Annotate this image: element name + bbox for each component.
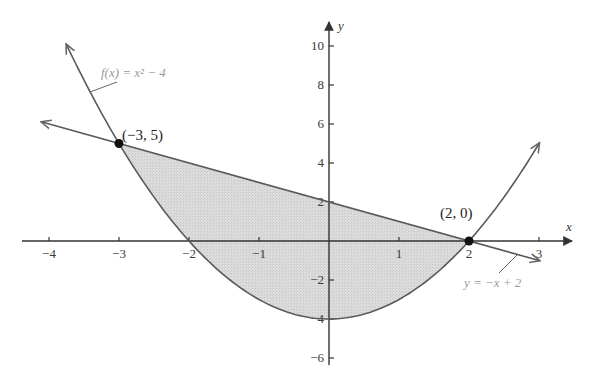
- parabola-label-pointer: [90, 82, 117, 92]
- x-axis-label: x: [565, 219, 572, 234]
- point-label-neg3-5: (−3, 5): [122, 127, 163, 144]
- x-tick-label: 2: [466, 246, 473, 261]
- point-label-2-0: (2, 0): [440, 205, 473, 222]
- y-tick-label: −6: [310, 350, 324, 365]
- x-tick-label: −1: [252, 246, 266, 261]
- y-tick-label: −2: [310, 272, 324, 287]
- x-tick-label: −4: [42, 246, 56, 261]
- y-tick-label: 8: [318, 77, 325, 92]
- x-tick-label: 3: [536, 246, 543, 261]
- x-tick-label: −2: [182, 246, 196, 261]
- x-tick-label: −3: [112, 246, 126, 261]
- parabola-label: f(x) = x² − 4: [101, 65, 166, 80]
- y-axis-label: y: [336, 18, 344, 33]
- y-tick-label: 10: [311, 38, 324, 53]
- intersection-point: [465, 237, 474, 246]
- x-tick-label: 1: [396, 246, 403, 261]
- y-tick-label: 6: [318, 116, 325, 131]
- shaded-region: [119, 144, 469, 320]
- y-tick-label: 2: [318, 194, 325, 209]
- line-label-pointer: [499, 255, 517, 273]
- y-tick-label: 4: [318, 155, 325, 170]
- chart: −4−3−2−1123x −6−4−2246810y f(x) = x² − 4…: [0, 0, 603, 384]
- line-label: y = −x + 2: [462, 275, 522, 290]
